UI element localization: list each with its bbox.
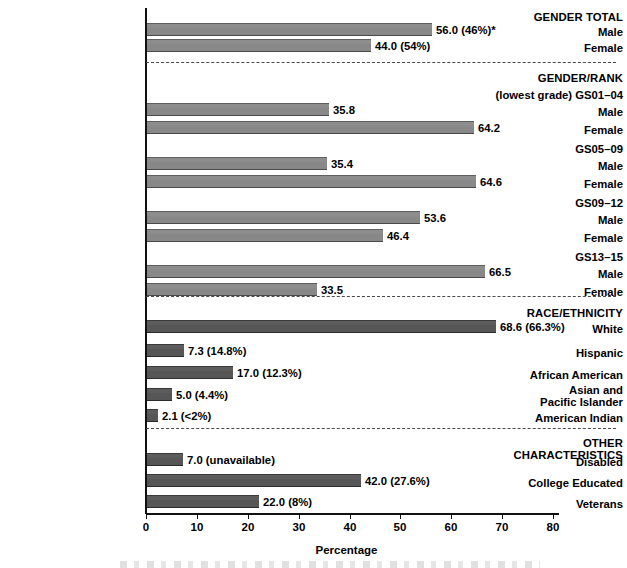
row-label-hispanic: Hispanic: [488, 347, 627, 359]
row-label-gender-total-male: Male: [488, 26, 627, 38]
section-heading-race-ethnicity: RACE/ETHNICITY: [488, 307, 627, 319]
x-tick-60: [451, 513, 452, 519]
x-tick-label-80: 80: [533, 521, 573, 533]
subsection-label-gs01-04: (lowest grade) GS01–04: [488, 89, 627, 101]
x-tick-0: [146, 513, 147, 519]
bar-value-veterans: 22.0 (8%): [263, 496, 312, 508]
bar-value-gs01-04-male: 35.8: [333, 104, 355, 116]
row-label-gs05-09-male: Male: [488, 160, 627, 172]
bar-value-gs13-15-female: 33.5: [321, 284, 343, 296]
row-label-gs01-04-female: Female: [488, 124, 627, 136]
bar-value-gs13-15-male: 66.5: [489, 266, 511, 278]
bar-gs13-15-male: [147, 265, 485, 278]
row-label-gs09-12-female: Female: [488, 232, 627, 244]
bar-chart: GENDER TOTAL Male 56.0 (46%)* Female 44.…: [0, 0, 627, 568]
row-label-disabled: Disabled: [488, 456, 627, 468]
x-tick-label-50: 50: [380, 521, 420, 533]
x-tick-10: [197, 513, 198, 519]
bar-value-gender-total-female: 44.0 (54%): [375, 40, 430, 52]
cropped-caption-fragment: [120, 561, 540, 568]
bar-gs09-12-male: [147, 211, 420, 224]
row-label-college-educated: College Educated: [488, 477, 627, 489]
x-tick-70: [502, 513, 503, 519]
row-label-american-indian: American Indian: [488, 412, 627, 424]
row-label-asian-pacific-islander: Asian and Pacific Islander: [488, 384, 627, 408]
x-tick-label-10: 10: [177, 521, 217, 533]
bar-value-american-indian: 2.1 (<2%): [162, 410, 211, 422]
x-tick-label-30: 30: [279, 521, 319, 533]
section-separator-1: [146, 62, 616, 63]
bar-white: [147, 320, 496, 333]
bar-value-asian-pacific-islander: 5.0 (4.4%): [176, 389, 228, 401]
bar-gs05-09-female: [147, 175, 476, 188]
bar-value-gs01-04-female: 64.2: [478, 122, 500, 134]
bar-african-american: [147, 366, 233, 379]
section-heading-gender-total: GENDER TOTAL: [488, 11, 627, 23]
bar-gender-total-female: [147, 39, 371, 52]
section-separator-3: [146, 428, 616, 429]
bar-gs01-04-female: [147, 121, 474, 134]
bar-value-gs05-09-female: 64.6: [480, 176, 502, 188]
row-label-gs01-04-male: Male: [488, 106, 627, 118]
x-tick-80: [553, 513, 554, 519]
x-axis-title: Percentage: [0, 544, 627, 556]
bar-college-educated: [147, 474, 361, 487]
bar-value-disabled: 7.0 (unavailable): [187, 454, 275, 466]
x-tick-20: [248, 513, 249, 519]
bar-hispanic: [147, 344, 184, 357]
section-heading-gender-rank: GENDER/RANK: [488, 72, 627, 84]
x-tick-label-40: 40: [330, 521, 370, 533]
x-tick-50: [400, 513, 401, 519]
bar-american-indian: [147, 409, 158, 422]
bar-asian-pacific-islander: [147, 388, 172, 401]
bar-value-gs09-12-male: 53.6: [424, 212, 446, 224]
x-tick-30: [299, 513, 300, 519]
subsection-label-gs05-09: GS05–09: [488, 143, 627, 155]
bar-disabled: [147, 453, 183, 466]
bar-gs05-09-male: [147, 157, 327, 170]
row-label-gs13-15-female: Female: [488, 286, 627, 298]
bar-value-african-american: 17.0 (12.3%): [237, 367, 302, 379]
x-tick-label-70: 70: [482, 521, 522, 533]
bar-veterans: [147, 495, 259, 508]
bar-gs09-12-female: [147, 229, 383, 242]
bar-value-gs05-09-male: 35.4: [331, 158, 353, 170]
row-label-gs09-12-male: Male: [488, 214, 627, 226]
x-tick-label-0: 0: [126, 521, 166, 533]
y-axis-line: [145, 8, 147, 514]
subsection-label-gs09-12: GS09–12: [488, 197, 627, 209]
bar-gs01-04-male: [147, 103, 329, 116]
subsection-label-gs13-15: GS13–15: [488, 251, 627, 263]
bar-gender-total-male: [147, 23, 432, 36]
x-tick-label-20: 20: [228, 521, 268, 533]
bar-value-college-educated: 42.0 (27.6%): [365, 475, 430, 487]
row-label-veterans: Veterans: [488, 498, 627, 510]
bar-value-gender-total-male: 56.0 (46%)*: [436, 24, 496, 36]
bar-value-hispanic: 7.3 (14.8%): [188, 345, 246, 357]
row-label-gs05-09-female: Female: [488, 178, 627, 190]
bar-gs13-15-female: [147, 283, 317, 296]
bar-value-white: 68.6 (66.3%): [500, 321, 565, 333]
x-tick-label-60: 60: [431, 521, 471, 533]
row-label-gender-total-female: Female: [488, 42, 627, 54]
row-label-african-american: African American: [488, 369, 627, 381]
x-axis-line: [146, 513, 559, 515]
x-tick-40: [350, 513, 351, 519]
bar-value-gs09-12-female: 46.4: [387, 230, 409, 242]
